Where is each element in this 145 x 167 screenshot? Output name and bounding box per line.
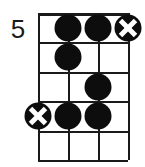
x-mute-icon [25,102,52,129]
fret-line-3 [38,101,128,103]
fret-line-1 [38,42,128,44]
marker-fret4-string3 [85,102,112,129]
string-line-1 [38,13,40,160]
marker-fret4-string1 [25,102,52,129]
marker-fret3-string3 [85,73,112,100]
fret-line-5 [38,160,128,162]
marker-fret1-string2 [55,14,82,41]
marker-fret2-string2 [55,44,82,71]
marker-fret1-string3 [85,14,112,41]
marker-fret1-string4 [115,14,142,41]
fret-line-2 [38,72,128,74]
fret-position-label: 5 [6,14,30,44]
fretboard-grid [38,13,128,160]
fret-line-4 [38,131,128,133]
marker-fret4-string2 [55,102,82,129]
chord-diagram: 5 [0,0,145,167]
x-mute-icon [115,14,142,41]
